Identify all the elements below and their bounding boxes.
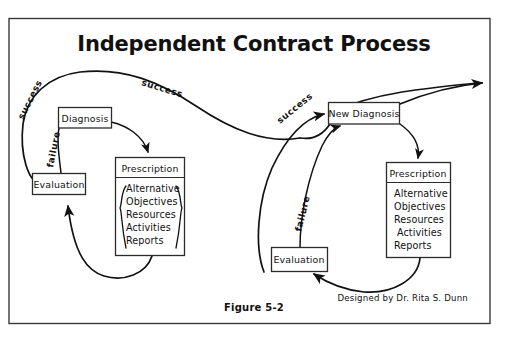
node-evaluation-right[interactable]: Evaluation (272, 248, 328, 272)
edge-label-text: success (16, 78, 44, 121)
prescription-right-item: Objectives (394, 201, 446, 212)
figure-credit: Designed by Dr. Rita S. Dunn (338, 293, 468, 303)
edge-label-text: success (140, 77, 184, 99)
prescription-left-item: Reports (126, 235, 164, 246)
prescription-right-item: Alternative (394, 188, 448, 199)
edge-prescription-to-evaluation-right (314, 258, 420, 292)
prescription-right-item: Reports (394, 240, 432, 251)
edge-label-failure-right: failure (293, 195, 312, 233)
edge-label-text: failure (293, 195, 312, 233)
prescription-right-item: Activities (397, 227, 442, 238)
prescription-left-item: Objectives (126, 196, 178, 207)
edge-success-mid-join (300, 124, 330, 138)
node-new-diagnosis[interactable]: New Diagnosis (329, 103, 400, 125)
node-prescription-left-header: Prescription (121, 163, 178, 174)
node-prescription-right[interactable]: Prescription Alternative Objectives Reso… (387, 163, 451, 258)
prescription-left-item: Resources (126, 209, 176, 220)
edge-failure-right (300, 126, 340, 248)
figure-caption: Figure 5-2 (224, 302, 284, 313)
figure-title: Independent Contract Process (77, 32, 430, 56)
prescription-left-item: Alternative (126, 183, 180, 194)
prescription-right-item: Resources (394, 214, 444, 225)
edge-diagnosis-to-prescription (111, 122, 148, 152)
node-prescription-right-header: Prescription (389, 168, 446, 179)
node-new-diagnosis-label: New Diagnosis (329, 108, 400, 119)
node-evaluation-left[interactable]: Evaluation (33, 174, 86, 195)
node-diagnosis-label: Diagnosis (62, 113, 109, 124)
node-diagnosis[interactable]: Diagnosis (59, 108, 112, 129)
node-evaluation-right-label: Evaluation (274, 254, 325, 265)
node-evaluation-left-label: Evaluation (34, 179, 85, 190)
edge-label-success-left: success (16, 78, 44, 121)
node-prescription-left[interactable]: Prescription Alternative Objectives Reso… (116, 158, 185, 256)
edge-newdiagnosis-to-prescription (400, 124, 418, 158)
process-diagram: Independent Contract Process success fai… (0, 0, 508, 337)
figure-canvas: Independent Contract Process success fai… (0, 0, 508, 337)
edge-label-success-mid: success (140, 77, 184, 99)
prescription-left-item: Activities (126, 222, 171, 233)
